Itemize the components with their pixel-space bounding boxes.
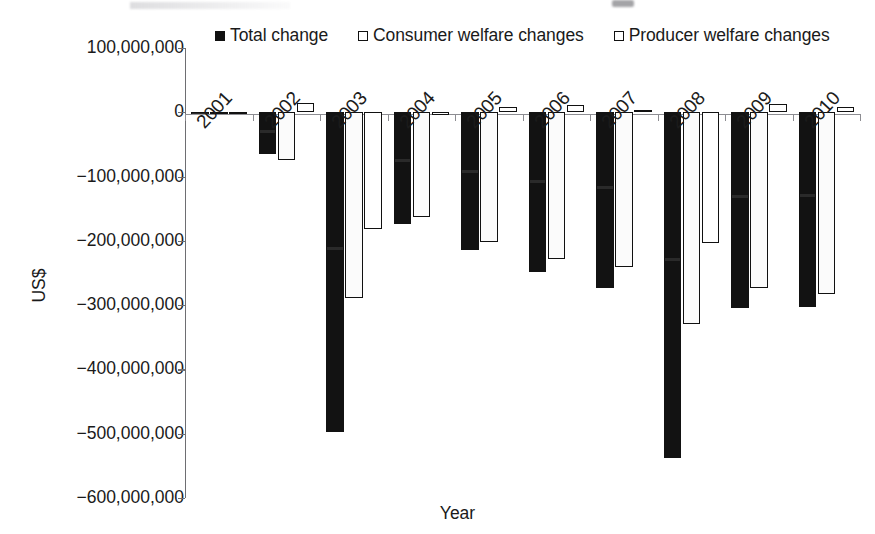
y-axis-tick-mark xyxy=(178,305,185,306)
bar-consumer-2006 xyxy=(548,112,566,259)
hollow-square-marker-icon xyxy=(614,31,624,41)
scan-artifact-top-right xyxy=(612,0,634,7)
y-axis-tick-mark xyxy=(178,112,185,113)
bar-producer-2003 xyxy=(364,112,382,228)
bar-producer-2008 xyxy=(702,112,720,243)
bar-total-2005 xyxy=(461,112,479,250)
legend-item-consumer-welfare: Consumer welfare changes xyxy=(358,27,584,45)
bar-producer-2007 xyxy=(634,110,652,113)
y-axis-title: US$ xyxy=(29,241,50,331)
bar-consumer-2008 xyxy=(683,112,701,324)
bar-consumer-2010 xyxy=(818,112,836,294)
bar-total-2007 xyxy=(596,112,614,288)
y-axis-tick-label: 100,000,000 xyxy=(87,37,184,58)
x-axis-tick-mark xyxy=(860,114,861,121)
y-axis-tick-label: −100,000,000 xyxy=(76,166,184,187)
y-axis-tick-label: −200,000,000 xyxy=(76,230,184,251)
bar-consumer-2007 xyxy=(615,112,633,266)
scan-artifact-top xyxy=(130,2,290,9)
bar-consumer-2009 xyxy=(750,112,768,288)
y-axis-tick-mark xyxy=(178,434,185,435)
legend-label-total-change: Total change xyxy=(230,27,328,45)
bar-total-2009 xyxy=(731,112,749,308)
y-axis-tick-label: −500,000,000 xyxy=(76,423,184,444)
bar-total-2003 xyxy=(326,112,344,432)
bar-total-2006 xyxy=(529,112,547,272)
y-axis-tick-label: −300,000,000 xyxy=(76,294,184,315)
bar-producer-2001 xyxy=(229,112,247,114)
y-axis-tick-mark xyxy=(178,177,185,178)
y-axis-tick-mark xyxy=(178,241,185,242)
bar-consumer-2005 xyxy=(480,112,498,242)
y-axis-tick-label: −400,000,000 xyxy=(76,358,184,379)
filled-square-marker-icon xyxy=(215,31,225,41)
bar-chart: Total change Consumer welfare changes Pr… xyxy=(0,0,875,534)
legend-label-consumer-welfare: Consumer welfare changes xyxy=(373,27,584,45)
legend-label-producer-welfare: Producer welfare changes xyxy=(629,27,830,45)
chart-legend: Total change Consumer welfare changes Pr… xyxy=(215,27,830,45)
legend-item-total-change: Total change xyxy=(215,27,328,45)
bar-total-2008 xyxy=(664,112,682,458)
bar-total-2010 xyxy=(799,112,817,307)
legend-item-producer-welfare: Producer welfare changes xyxy=(614,27,830,45)
bar-consumer-2003 xyxy=(345,112,363,298)
hollow-square-marker-icon xyxy=(358,31,368,41)
bar-producer-2004 xyxy=(432,112,450,115)
y-axis-tick-mark xyxy=(178,48,185,49)
y-axis-tick-mark xyxy=(178,369,185,370)
y-axis-tick-mark xyxy=(178,498,185,499)
x-axis-title: Year xyxy=(0,503,875,524)
